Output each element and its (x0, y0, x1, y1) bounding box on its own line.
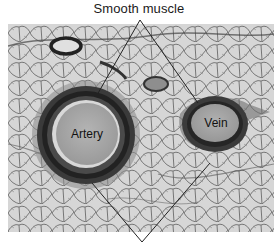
smooth-muscle-label: Smooth muscle (0, 1, 278, 16)
artery: Artery (32, 81, 140, 189)
artery-label: Artery (71, 127, 103, 141)
vein-label: Vein (204, 116, 227, 130)
micrograph: Artery Vein (8, 24, 274, 232)
tissue-micrograph: Artery Vein (8, 24, 274, 232)
